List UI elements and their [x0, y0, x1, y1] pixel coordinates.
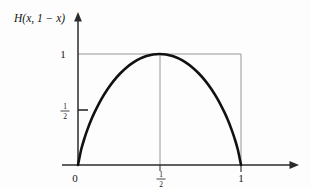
entropy-function-figure: H(x, 1 − x) 1 1 2 0 1 2 1: [0, 0, 310, 187]
y-tick-half-numerator: 1: [63, 102, 67, 111]
figure-background: [0, 0, 310, 187]
x-tick-half-denominator: 2: [159, 180, 163, 187]
y-tick-label-one: 1: [60, 48, 66, 60]
y-axis-label: H(x, 1 − x): [13, 12, 65, 25]
x-tick-label-zero: 0: [72, 172, 78, 184]
chart-canvas: H(x, 1 − x) 1 1 2 0 1 2 1: [0, 0, 310, 187]
y-tick-half-denominator: 2: [63, 112, 67, 121]
x-tick-half-numerator: 1: [159, 170, 163, 179]
x-tick-label-one: 1: [238, 172, 244, 184]
